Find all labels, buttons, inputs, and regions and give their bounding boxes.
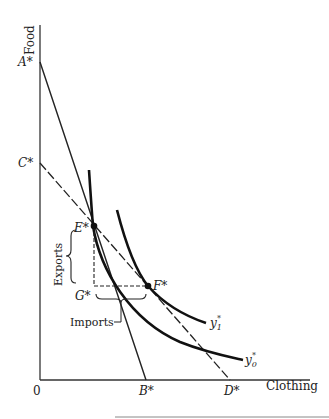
exports-brace bbox=[66, 230, 76, 283]
point-e bbox=[91, 223, 98, 230]
point-f bbox=[145, 283, 152, 290]
origin-label: 0 bbox=[33, 384, 41, 398]
label-g: G* bbox=[75, 289, 91, 303]
imports-leader bbox=[114, 303, 121, 322]
x-axis-label: Clothing bbox=[266, 379, 318, 393]
label-f: F* bbox=[152, 279, 167, 293]
exports-label: Exports bbox=[52, 242, 65, 286]
label-y1: y1* bbox=[209, 314, 222, 332]
trade-diagram: Food A* C* E* F* G* B* D* 0 Clothing Exp… bbox=[0, 0, 329, 419]
label-a: A* bbox=[17, 55, 33, 69]
label-y0: y0* bbox=[244, 351, 257, 369]
label-b: B* bbox=[138, 384, 154, 398]
imports-label: Imports bbox=[70, 316, 114, 329]
label-c: C* bbox=[18, 156, 33, 170]
label-d: D* bbox=[223, 384, 240, 398]
label-e: E* bbox=[73, 221, 89, 235]
y-axis-label: Food bbox=[23, 25, 37, 55]
